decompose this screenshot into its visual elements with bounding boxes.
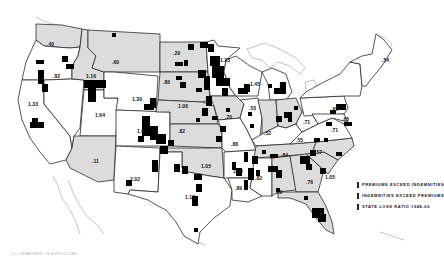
state-ratio-minnesota: 1.33 [220, 58, 230, 63]
state-ratio-alabama: .89 [275, 190, 282, 195]
legend-item-loss-ratio: STATE LOSS RATIO 1948-65 [357, 202, 427, 211]
state-washington [36, 24, 82, 48]
state-ratio-wisconsin: 1.45 [250, 82, 260, 87]
white-swatch-icon [357, 182, 359, 188]
state-ratio-nebraska: 1.06 [178, 104, 188, 109]
state-ratio-california: 1.33 [28, 102, 38, 107]
state-arizona [66, 136, 116, 182]
legend-label: STATE LOSS RATIO 1948-65 [362, 204, 430, 209]
state-ratio-missouri: .88 [231, 142, 238, 147]
state-ratio-maryland: .65 [342, 117, 349, 122]
state-ratio-mississippi: .82 [255, 176, 262, 181]
state-ratio-oklahoma: 1.05 [201, 164, 211, 169]
state-ratio-georgia: .76 [306, 180, 313, 185]
legend-label: PREMIUMS EXCEED INDEMNITIES [362, 182, 444, 187]
state-ratio-montana: .60 [112, 60, 119, 65]
state-ratio-indiana: .52 [264, 131, 271, 136]
outline-swatch-icon [357, 204, 359, 210]
state-ratio-wyoming: 1.30 [132, 97, 142, 102]
state-ratio-south-dakota: .86 [163, 80, 170, 85]
state-michigan [262, 68, 292, 100]
state-ratio-florida: 1.75 [313, 209, 323, 214]
state-ratio-utah: 1.64 [95, 113, 105, 118]
state-ratio-colorado: 1.92 [137, 129, 147, 134]
state-ratio-south-carolina: 1.05 [325, 175, 335, 180]
state-ratio-pennsylvania: .65 [331, 107, 338, 112]
state-ratio-new-mexico: 2.02 [130, 177, 140, 182]
legend-label: INDEMNITIES EXCEED PREMIUMS [362, 193, 444, 198]
legend-item-indemnities: INDEMNITIES EXCEED PREMIUMS [357, 191, 427, 200]
map-legend: PREMIUMS EXCEED INDEMNITIES INDEMNITIES … [357, 180, 427, 213]
state-ratio-michigan: .97 [279, 83, 286, 88]
state-ratio-arizona: .11 [92, 159, 99, 164]
state-ratio-texas: 1.13 [185, 195, 195, 200]
state-ratio-louisiana: .89 [235, 186, 242, 191]
state-new-york [300, 62, 362, 98]
state-ratio-maine: .54 [382, 58, 389, 63]
state-ratio-north-carolina: .57 [315, 150, 322, 155]
state-ratio-washington: .40 [47, 42, 54, 47]
state-ratio-illinois: .53 [249, 106, 256, 111]
black-swatch-icon [357, 193, 359, 199]
state-ratio-kentucky: .55 [296, 138, 303, 143]
state-montana [88, 30, 160, 72]
state-ratio-virginia: .71 [331, 128, 338, 133]
map-credit: U.S. DEPARTMENT OF AGRICULTURE [11, 252, 77, 256]
state-ratio-ohio: .71 [303, 120, 310, 125]
state-ratio-oregon: .82 [53, 74, 60, 79]
state-ratio-tennessee: .84 [281, 153, 288, 158]
state-ratio-north-dakota: .29 [173, 51, 180, 56]
legend-item-premiums: PREMIUMS EXCEED INDEMNITIES [357, 180, 427, 189]
state-ratio-iowa: .70 [225, 115, 232, 120]
state-ratio-kansas: .82 [178, 129, 185, 134]
state-ratio-idaho: 1.16 [86, 74, 96, 79]
state-ratio-arkansas: 1.25 [233, 169, 243, 174]
mexico-coast [180, 225, 404, 245]
baja-coast [53, 176, 104, 234]
